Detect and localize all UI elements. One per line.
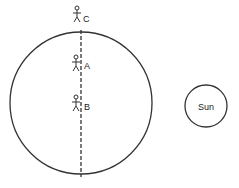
observer-c-label: C bbox=[83, 14, 90, 24]
earth-sun-diagram: C A B Sun bbox=[0, 0, 239, 188]
sun-label: Sun bbox=[198, 102, 214, 112]
observer-a-label: A bbox=[84, 61, 90, 71]
observer-b-label: B bbox=[84, 102, 90, 112]
observer-a-figure-icon bbox=[72, 55, 80, 71]
observer-c-figure-icon bbox=[73, 6, 81, 22]
observer-b-figure-icon bbox=[72, 95, 80, 111]
